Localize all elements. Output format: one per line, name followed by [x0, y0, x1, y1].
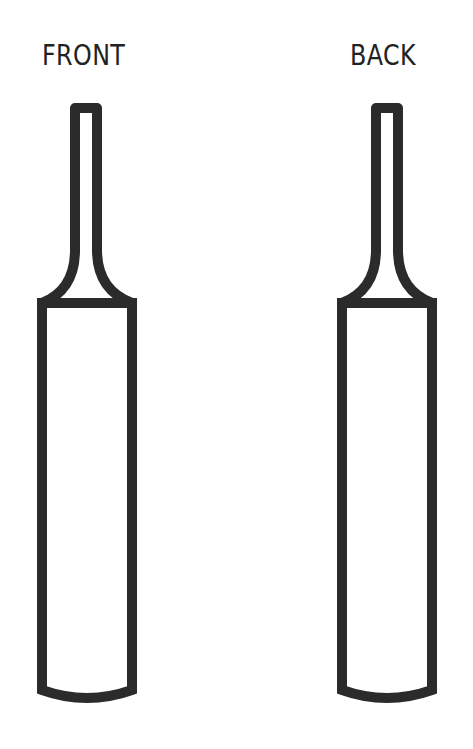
cricket-bat-diagram: [0, 0, 473, 749]
back-bat-handle: [342, 108, 432, 303]
front-bat-blade: [42, 303, 132, 698]
front-bat-outline: [42, 108, 132, 698]
front-bat-handle: [42, 108, 132, 303]
back-bat-outline: [342, 108, 432, 698]
back-bat-blade: [342, 303, 432, 698]
